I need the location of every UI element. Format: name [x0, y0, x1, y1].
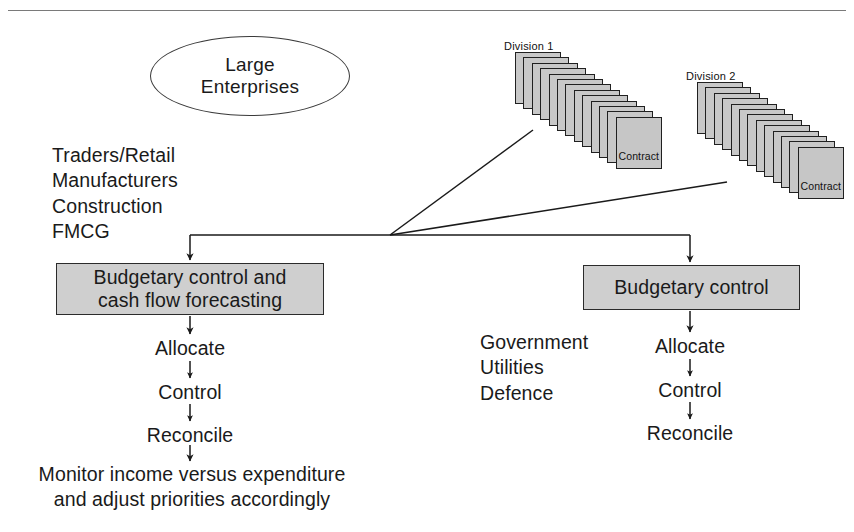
flow-step-right-allocate: Allocate [655, 335, 725, 358]
connector-division1 [390, 130, 533, 235]
diagram-canvas: Large Enterprises Traders/Retail Manufac… [0, 0, 854, 532]
process-box-right-line-1: Budgetary control [614, 276, 769, 299]
contract-label: Contract [799, 180, 843, 192]
conclusion-line-2: and adjust priorities accordingly [39, 487, 346, 512]
sector-list-left: Traders/Retail Manufacturers Constructio… [52, 143, 178, 244]
process-box-left-line-2: cash flow forecasting [98, 289, 282, 312]
contract-label: Contract [617, 150, 661, 162]
contract-document-front: Contract [798, 147, 844, 199]
document-stack-division-2-label: Division 2 [686, 70, 736, 82]
flow-step-right-reconcile: Reconcile [647, 422, 734, 445]
contract-document-front: Contract [616, 117, 662, 169]
document-stack-division-1: Contract [515, 52, 675, 182]
sector-item: Utilities [480, 355, 588, 380]
flow-step-right-control: Control [658, 379, 722, 402]
sector-item: Manufacturers [52, 168, 178, 193]
conclusion-line-1: Monitor income versus expenditure [39, 462, 346, 487]
process-box-budgetary-control-cashflow: Budgetary control and cash flow forecast… [56, 263, 324, 315]
sector-item: Traders/Retail [52, 143, 178, 168]
large-enterprises-oval: Large Enterprises [150, 36, 350, 116]
conclusion-text: Monitor income versus expenditure and ad… [39, 462, 346, 512]
document-stack-division-1-label: Division 1 [504, 40, 554, 52]
oval-line-1: Large [225, 54, 275, 76]
sector-item: Defence [480, 381, 588, 406]
flow-step-left-reconcile: Reconcile [147, 424, 234, 447]
connector-division2 [390, 182, 727, 235]
process-box-left-line-1: Budgetary control and [94, 266, 287, 289]
sector-item: FMCG [52, 219, 178, 244]
sector-item: Government [480, 330, 588, 355]
oval-line-2: Enterprises [201, 76, 299, 98]
flow-step-left-control: Control [158, 381, 222, 404]
flow-step-left-allocate: Allocate [155, 337, 225, 360]
process-box-budgetary-control: Budgetary control [583, 265, 800, 310]
sector-list-right: Government Utilities Defence [480, 330, 588, 406]
sector-item: Construction [52, 194, 178, 219]
document-stack-division-2: Contract [697, 82, 854, 212]
